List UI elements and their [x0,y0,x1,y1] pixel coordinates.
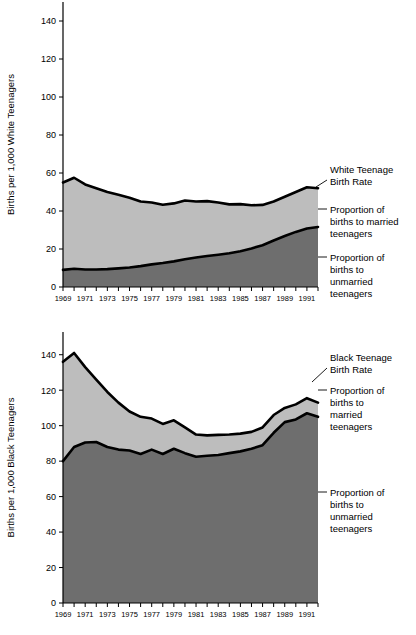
x-tick-label: 1971 [77,610,94,619]
y-tick-label: 100 [41,92,56,102]
x-tick-label: 1981 [188,610,205,619]
annotation-leader-line [316,180,327,187]
x-tick-label: 1983 [210,294,227,303]
x-tick-label: 1983 [210,610,227,619]
x-tick-label: 1979 [166,610,183,619]
annotation-line: teenagers [330,288,373,299]
y-tick-label: 80 [46,130,56,140]
x-tick-label: 1981 [188,294,205,303]
x-tick-label: 1973 [99,294,116,303]
x-tick-label: 1989 [276,610,293,619]
plot-root [63,353,318,603]
black-teen-births-chart: 0204060801001201401969197119731975197719… [0,318,416,635]
annotation-line: Birth Rate [330,176,372,187]
annotation-line: White Teenage [330,164,393,175]
x-tick-label: 1977 [143,294,160,303]
x-tick-label: 1969 [55,294,72,303]
annotation-line: Proportion of [330,487,385,498]
annotation-line: unmarried [330,511,373,522]
x-tick-label: 1987 [254,610,271,619]
annotations: White TeenageBirth RateProportion ofbirt… [316,164,399,299]
annotation-line: teenagers [330,228,373,239]
annotation-line: teenagers [330,523,373,534]
y-tick-label: 40 [46,527,56,537]
y-tick-label: 120 [41,386,56,396]
x-tick-label: 1969 [55,610,72,619]
x-tick-label: 1985 [232,294,249,303]
y-tick-label: 140 [41,350,56,360]
x-tick-label: 1977 [143,610,160,619]
x-tick-label: 1975 [121,294,138,303]
y-axis-title: Births per 1,000 White Teenagers [5,74,16,215]
annotation-line: births to [330,264,364,275]
y-tick-label: 140 [41,16,56,26]
y-tick-label: 20 [46,563,56,573]
y-tick-label: 60 [46,168,56,178]
annotation-line: births to [330,397,364,408]
y-tick-label: 80 [46,456,56,466]
annotation-line: Proportion of [330,385,385,396]
annotation-line: Black Teenage [330,352,392,363]
annotation-line: births to [330,499,364,510]
x-tick-label: 1991 [299,610,316,619]
annotation-line: Birth Rate [330,364,372,375]
x-tick-label: 1971 [77,294,94,303]
chart-panel-black-teenagers: 0204060801001201401969197119731975197719… [0,318,416,635]
x-tick-label: 1973 [99,610,116,619]
y-tick-label: 0 [51,282,56,292]
x-tick-label: 1987 [254,294,271,303]
figure-container: 0204060801001201401969197119731975197719… [0,0,416,635]
y-tick-label: 20 [46,244,56,254]
x-tick-label: 1979 [166,294,183,303]
y-axis-title: Births per 1,000 Black Teenagers [5,397,16,537]
white-teen-births-chart: 0204060801001201401969197119731975197719… [0,0,416,318]
chart-panel-white-teenagers: 0204060801001201401969197119731975197719… [0,0,416,318]
annotations: Black TeenageBirth RateProportion ofbirt… [312,352,392,534]
y-tick-label: 100 [41,421,56,431]
annotation-line: married [330,409,362,420]
x-tick-label: 1975 [121,610,138,619]
y-tick-label: 0 [51,598,56,608]
plot-root [63,178,318,287]
annotation-line: Proportion of [330,204,385,215]
annotation-line: unmarried [330,276,373,287]
y-tick-label: 60 [46,492,56,502]
y-tick-label: 40 [46,206,56,216]
annotation-line: teenagers [330,421,373,432]
annotation-line: births to married [330,216,399,227]
annotation-line: Proportion of [330,252,385,263]
x-tick-label: 1991 [299,294,316,303]
annotation-leader-line [312,368,327,382]
x-tick-label: 1989 [276,294,293,303]
y-tick-label: 120 [41,54,56,64]
x-tick-label: 1985 [232,610,249,619]
